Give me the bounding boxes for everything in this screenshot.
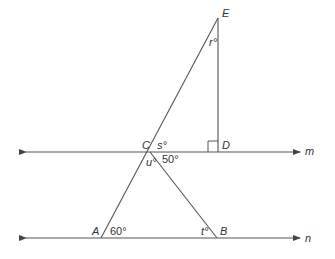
angle-u-label: u° (146, 156, 157, 168)
angle-s-label: s° (157, 139, 168, 151)
angle-50-label: 50° (162, 153, 179, 165)
label-point-a: A (91, 225, 99, 237)
label-point-c: C (142, 139, 150, 151)
angle-r-label: r° (209, 36, 218, 48)
label-point-d: D (222, 139, 230, 151)
angle-60-label: 60° (110, 225, 127, 237)
label-point-b: B (220, 225, 227, 237)
angle-t-label: t° (201, 225, 209, 237)
label-line-m: m (305, 145, 314, 157)
label-line-n: n (305, 232, 311, 244)
segment-ae (101, 18, 218, 238)
geometry-diagram: E C D A B m n r° s° u° 50° 60° t° (0, 0, 335, 259)
label-point-e: E (222, 7, 230, 19)
right-angle-marker (208, 141, 218, 152)
